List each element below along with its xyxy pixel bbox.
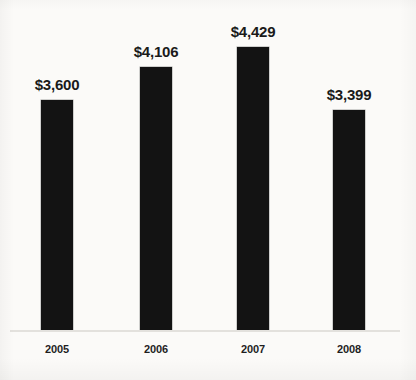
- x-axis-baseline: [10, 330, 400, 332]
- bar-2007: [237, 47, 269, 331]
- category-label-2006: 2006: [108, 343, 204, 355]
- plot-area: $3,600 2005 $4,106 2006 $4,429 2007 $3,3…: [0, 0, 416, 380]
- category-label-2008: 2008: [301, 343, 397, 355]
- bar-2006: [140, 67, 172, 331]
- bar-value-label: $4,429: [196, 23, 310, 40]
- bar-2005: [41, 100, 73, 331]
- bar-value-label: $3,399: [292, 86, 406, 103]
- bar-2008: [333, 110, 365, 331]
- category-label-2005: 2005: [9, 343, 105, 355]
- bar-chart: $3,600 2005 $4,106 2006 $4,429 2007 $3,3…: [0, 0, 416, 380]
- bar-value-label: $3,600: [0, 76, 114, 93]
- category-label-2007: 2007: [205, 343, 301, 355]
- bar-value-label: $4,106: [99, 43, 213, 60]
